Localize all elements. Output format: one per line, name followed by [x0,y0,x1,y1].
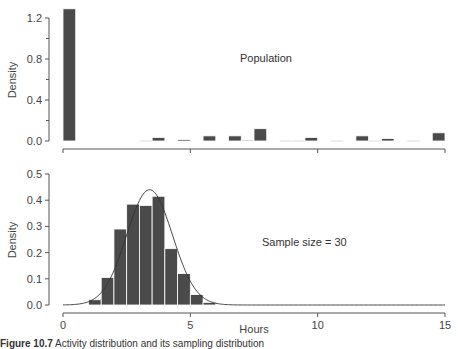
caption-text: Activity distribution and its sampling d… [55,338,264,349]
histogram-bar [407,140,420,141]
y-tick-label: 0.1 [27,273,42,285]
histogram-bar [241,140,254,141]
population-label: Population [240,52,292,64]
histogram-bar [139,205,152,305]
y-tick-label: 0.4 [27,94,42,106]
histogram-bar [229,136,242,141]
y-tick-label: 0.3 [27,220,42,232]
figure-caption: Figure 10.7 Activity distribution and it… [0,338,264,349]
histogram-bar [292,140,305,141]
histogram-bar [101,277,114,305]
y-tick-label: 0.4 [27,194,42,206]
x-tick-label: 15 [439,319,451,331]
histogram-bar [279,140,292,141]
histogram-bar [152,137,165,141]
histogram-bar [369,140,382,141]
y-tick-label: 0.0 [27,135,42,147]
histogram-bar [127,204,140,305]
x-tick-label: 10 [312,319,324,331]
histogram-bar [152,196,165,305]
histogram-bar [381,138,394,141]
y-tick-label: 0.2 [27,247,42,259]
histogram-bar [432,133,445,141]
histogram-bar [254,129,267,141]
y-tick-label: 0.5 [27,168,42,180]
histogram-bar [63,9,76,141]
y-tick-label: 0.8 [27,53,42,65]
y-tick-label: 0.0 [27,299,42,311]
sample-panel: 0.00.10.20.30.40.5Density051015HoursSamp… [6,168,451,335]
histogram-bar [165,249,178,305]
histogram-bar [203,136,216,141]
caption-label: Figure 10.7 [0,338,53,349]
histogram-bar [139,140,152,141]
x-tick-label: 0 [60,319,66,331]
y-tick-label: 1.2 [27,12,42,24]
population-panel: 0.00.40.81.2DensityPopulation [6,9,445,153]
sample-size-label: Sample size = 30 [262,236,347,248]
histogram-bar [356,136,369,141]
y-axis-title: Density [6,221,18,258]
histogram-bar [330,140,343,141]
y-axis-title: Density [6,61,18,98]
x-tick-label: 5 [187,319,193,331]
x-axis-title: Hours [239,323,269,335]
histogram-bar [178,139,191,141]
histogram-bar [305,137,318,141]
